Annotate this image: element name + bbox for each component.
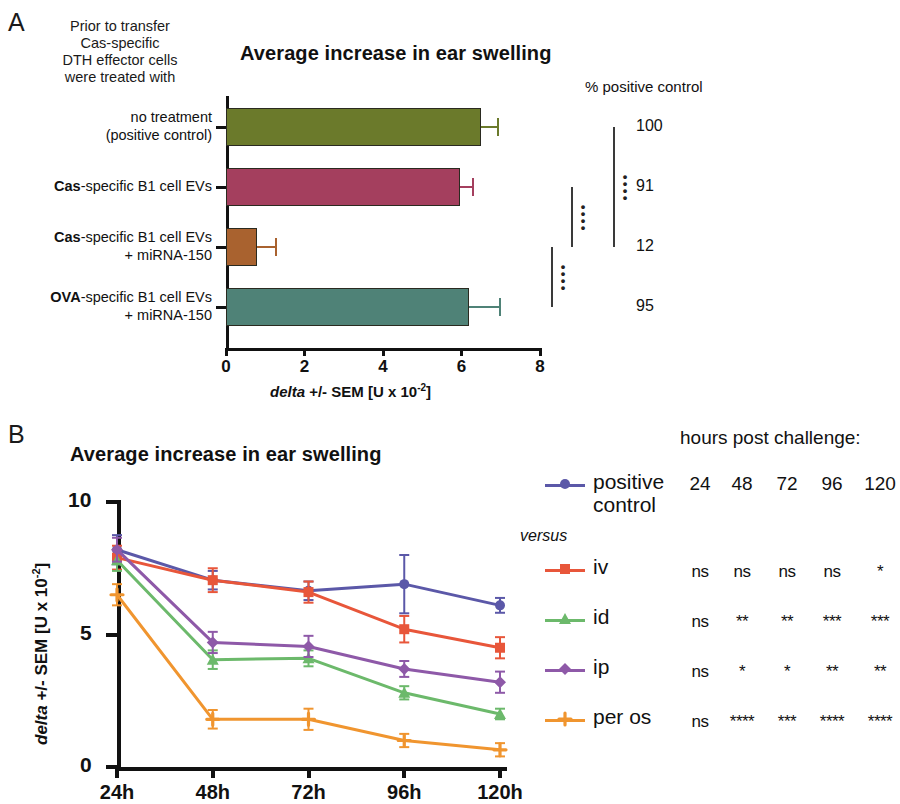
- legend-marker-iv: [545, 560, 585, 578]
- series-marker-ip-4: [494, 676, 506, 688]
- bar-label-2: Cas-specific B1 cell EVs+ miRNA-150: [0, 229, 212, 264]
- pct-positive-control-header: % positive control: [585, 78, 703, 95]
- stat-per os-96: ****: [806, 712, 858, 732]
- hours-col-96: 96: [808, 473, 856, 495]
- x-tick: [460, 348, 463, 356]
- x-tick-label: 6: [448, 357, 476, 377]
- series-marker-iv-3: [399, 624, 409, 634]
- y-tick-3: [216, 306, 226, 309]
- bar-2: [226, 228, 257, 266]
- series-marker-per os-4: [494, 744, 506, 756]
- series-marker-positive control-4: [495, 600, 505, 610]
- bar-1: [226, 168, 460, 206]
- versus-label: versus: [520, 527, 567, 545]
- panel-b: B Average increase in ear swelling delta…: [0, 415, 889, 804]
- x-tick: [303, 348, 306, 356]
- pct-value-1: 91: [636, 177, 654, 195]
- hours-col-48: 48: [718, 473, 766, 495]
- caption-line-0: Prior to transfer: [30, 18, 210, 35]
- panel-a-caption: Prior to transferCas-specificDTH effecto…: [30, 18, 210, 86]
- pct-value-2: 12: [636, 237, 654, 255]
- panel-a-letter: A: [8, 8, 25, 37]
- caption-line-1: Cas-specific: [30, 35, 210, 52]
- y-tick-0: [216, 126, 226, 129]
- hours-post-challenge-header: hours post challenge:: [680, 427, 861, 449]
- series-marker-iv-2: [304, 587, 314, 597]
- bar-label-1: Cas-specific B1 cell EVs: [0, 178, 212, 196]
- series-marker-iv-1: [208, 575, 218, 585]
- error-bar-1: [460, 186, 474, 188]
- stat-id-96: ***: [806, 612, 858, 632]
- bar-label-0: no treatment(positive control): [0, 109, 212, 144]
- error-cap-2: [275, 238, 277, 256]
- legend-marker-per os: [545, 710, 585, 728]
- stat-iv-120: *: [854, 562, 900, 582]
- bar-0: [226, 108, 481, 146]
- legend-marker-ip: [545, 660, 585, 678]
- hours-col-24: 24: [676, 473, 724, 495]
- x-tick-label: 0: [212, 357, 240, 377]
- legend-label-iv: iv: [593, 555, 608, 578]
- y-tick-2: [216, 246, 226, 249]
- bar-label-3: OVA-specific B1 cell EVs+ miRNA-150: [0, 289, 212, 324]
- series-marker-positive control-3: [399, 579, 409, 589]
- caption-line-2: DTH effector cells: [30, 52, 210, 69]
- legend-label-id: id: [593, 605, 609, 628]
- sig-bracket-0: [613, 127, 615, 247]
- stat-ip-120: **: [854, 662, 900, 682]
- stat-iv-96: ns: [806, 562, 858, 582]
- sig-stars-2: ••••: [558, 263, 568, 291]
- y-tick-1: [216, 186, 226, 189]
- error-bar-0: [481, 126, 497, 128]
- bar-3: [226, 288, 469, 326]
- series-marker-ip-3: [398, 663, 410, 675]
- legend-label-ip: ip: [593, 655, 609, 678]
- series-marker-per os-3: [398, 735, 410, 747]
- series-marker-iv-4: [495, 643, 505, 653]
- stat-per os-120: ****: [854, 712, 900, 732]
- pct-value-0: 100: [636, 117, 663, 135]
- error-cap-0: [497, 118, 499, 136]
- sig-bracket-1: [571, 187, 573, 247]
- panel-a-title: Average increase in ear swelling: [240, 42, 552, 65]
- sig-stars-0: ••••: [620, 173, 630, 201]
- hours-col-120: 120: [856, 473, 900, 495]
- error-cap-1: [472, 178, 474, 196]
- x-tick-label: 4: [369, 357, 397, 377]
- error-bar-2: [257, 246, 277, 248]
- series-marker-per os-2: [303, 713, 315, 725]
- panel-a-x-axis-label: delta +/- SEM [U x 10-2]: [270, 382, 431, 400]
- pct-value-3: 95: [636, 297, 654, 315]
- legend-marker-id: [545, 610, 585, 628]
- legend-label-per os: per os: [593, 705, 651, 728]
- legend-marker-positive control: [545, 475, 585, 493]
- hours-col-72: 72: [763, 473, 811, 495]
- x-tick-label: 2: [291, 357, 319, 377]
- x-tick-label: 8: [526, 357, 554, 377]
- sig-stars-1: ••••: [578, 203, 588, 231]
- caption-line-3: were treated with: [30, 69, 210, 86]
- panel-a: A Prior to transferCas-specificDTH effec…: [0, 0, 889, 415]
- x-tick: [539, 348, 542, 356]
- legend-label-positive control: positivecontrol: [593, 470, 664, 516]
- error-bar-3: [469, 306, 500, 308]
- sig-bracket-2: [551, 247, 553, 307]
- error-cap-3: [499, 298, 501, 316]
- stat-ip-96: **: [806, 662, 858, 682]
- stat-id-120: ***: [854, 612, 900, 632]
- x-tick: [382, 348, 385, 356]
- x-tick: [225, 348, 228, 356]
